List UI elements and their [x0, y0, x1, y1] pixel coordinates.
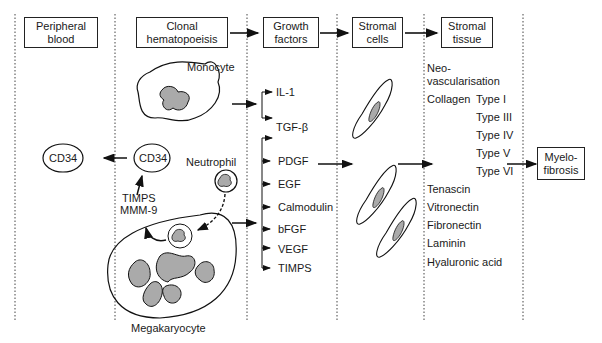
header-stromal-tissue: Stromaltissue — [441, 17, 493, 48]
st-neo: Neo- — [427, 62, 451, 75]
gf-il1: IL-1 — [276, 86, 295, 99]
mmm9-label: MMM-9 — [120, 204, 157, 217]
st-collagen: Collagen — [427, 93, 470, 106]
gf-egf: EGF — [278, 178, 301, 191]
gf-calmodulin: Calmodulin — [278, 201, 333, 214]
gf-bfgf: bFGF — [278, 223, 306, 236]
gf-timps: TIMPS — [278, 262, 312, 275]
st-type-v: Type V — [476, 147, 510, 160]
st-fibronectin: Fibronectin — [427, 219, 481, 232]
outcome-myelofibrosis: Myelo-fibrosis — [537, 147, 585, 180]
st-tenascin: Tenascin — [427, 183, 470, 196]
st-type-iii: Type III — [476, 111, 512, 124]
megakaryocyte-label: Megakaryocyte — [131, 322, 206, 335]
st-laminin: Laminin — [427, 237, 466, 250]
header-growth-factors: Growthfactors — [263, 17, 319, 48]
monocyte-label: Monocyte — [187, 61, 235, 74]
st-vitronectin: Vitronectin — [427, 201, 479, 214]
gf-pdgf: PDGF — [278, 155, 309, 168]
st-type-vi: Type VI — [476, 165, 513, 178]
st-hyaluronic-acid: Hyaluronic acid — [427, 256, 502, 269]
header-peripheral-blood: Peripheralblood — [24, 17, 98, 48]
gf-vegf: VEGF — [278, 243, 308, 256]
st-type-iv: Type IV — [476, 129, 513, 142]
cd34-clonal-label: CD34 — [139, 152, 167, 165]
neutrophil-label: Neutrophil — [186, 156, 236, 169]
header-stromal-cells: Stromalcells — [352, 17, 403, 48]
cd34-blood-label: CD34 — [49, 152, 77, 165]
header-clonal-hematopoeisis: Clonalhematopoeisis — [136, 17, 228, 48]
st-vascularisation: vascularisation — [427, 75, 500, 88]
st-type-i: Type I — [476, 93, 506, 106]
gf-tgf-beta: TGF-β — [276, 121, 308, 134]
column-dividers — [15, 14, 523, 322]
